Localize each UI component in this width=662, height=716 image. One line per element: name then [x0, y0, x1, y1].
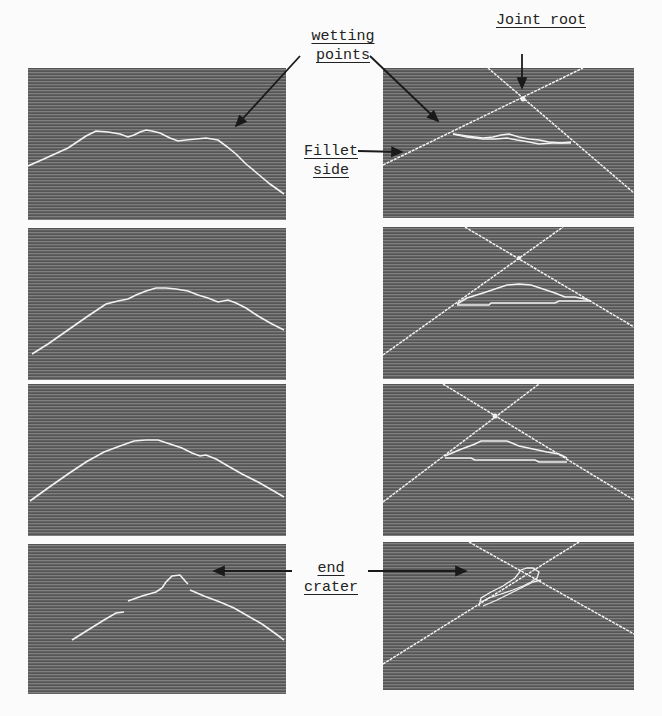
scan-panel-left-1: [28, 68, 286, 220]
scan-panel-left-3: [28, 384, 286, 536]
scan-panel-left-2: [28, 228, 286, 380]
wetting-points-label: wetting points: [298, 28, 388, 64]
joint-root-point: [493, 414, 498, 419]
fit-trace-right-3: [383, 384, 634, 536]
joint-root-label: Joint root: [476, 12, 606, 29]
joint-root-point: [521, 97, 526, 102]
fillet-side-label: Fillet side: [296, 143, 366, 179]
scan-panel-left-4: [28, 544, 286, 694]
profile-trace-left-1: [28, 68, 286, 220]
fit-trace-right-2: [383, 227, 634, 379]
fit-panel-right-2: [383, 227, 634, 379]
fit-panel-right-4: [383, 542, 634, 690]
profile-trace-left-4: [28, 544, 286, 694]
joint-root-point: [517, 256, 521, 260]
profile-trace-left-2: [28, 228, 286, 380]
fit-trace-right-4: [383, 542, 634, 690]
profile-trace-left-3: [28, 384, 286, 536]
fit-panel-right-1: [383, 68, 634, 218]
end-crater-label: end crater: [298, 560, 364, 596]
fit-panel-right-3: [383, 384, 634, 536]
fit-trace-right-1: [383, 68, 634, 218]
